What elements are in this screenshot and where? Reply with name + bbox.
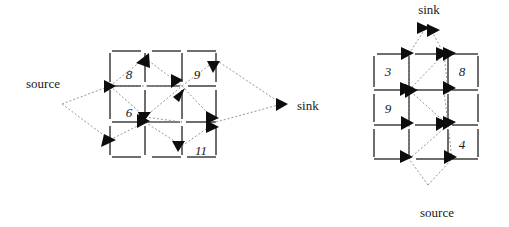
right-sink-label: sink [418,2,440,17]
capacity-label-6: 6 [126,105,133,120]
capacity-label-8: 8 [126,67,133,82]
capacity-label-11: 11 [195,143,207,158]
capacity-label-4: 4 [459,137,466,152]
capacity-label-9-right: 9 [385,101,392,116]
left-source-label: source [26,76,60,91]
flow-network-figure: 8 9 6 11 source sink [0,0,509,227]
capacity-label-3: 3 [384,64,392,79]
right-source-label: source [420,205,454,220]
capacity-label-8-right: 8 [459,64,466,79]
left-sink-label: sink [297,98,319,113]
capacity-label-9: 9 [194,67,201,82]
figure-background [0,0,509,227]
